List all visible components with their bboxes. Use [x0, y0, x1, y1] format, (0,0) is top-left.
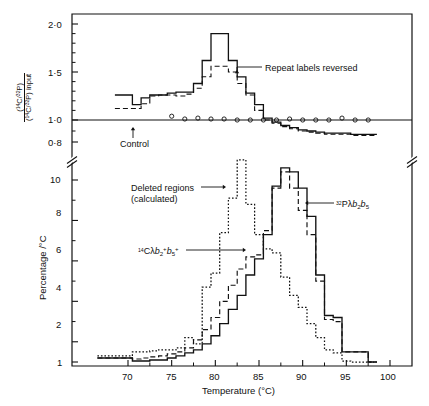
- top-ytick-2-0: 2·0: [48, 20, 62, 31]
- xtick-75: 75: [166, 372, 177, 383]
- top-yaxis-title: (14C/32P) (14C/32P) input: [16, 73, 33, 122]
- annotation-c14-lambda: 14Cλb2+b5+: [138, 246, 179, 257]
- annotation-control: Control: [120, 139, 149, 149]
- p32-superscript: 32: [336, 200, 342, 209]
- bottom-ytick-8: 8: [56, 208, 61, 219]
- fraction-numerator: (14C/32P): [16, 73, 24, 122]
- xtick-85: 85: [253, 372, 264, 383]
- top-yaxis-fraction: (14C/32P) (14C/32P) input: [16, 73, 33, 122]
- xtick-95: 95: [340, 372, 351, 383]
- top-ytick-0-8: 0·8: [48, 138, 62, 149]
- xtick-100: 100: [380, 372, 396, 383]
- bottom-ytick-4: 4: [56, 283, 61, 294]
- xtick-80: 80: [209, 372, 220, 383]
- annotation-p32-lambda: 32Pλb2b5: [336, 199, 369, 210]
- annotation-repeat-labels-reversed: Repeat labels reversed: [265, 63, 358, 73]
- bottom-ytick-6: 6: [56, 245, 61, 256]
- denaturation-figure: 2·0 1·5 1·0 0·8 (14C/32P) (14C/32P) inpu…: [0, 0, 429, 406]
- bottom-ytick-10: 10: [50, 175, 61, 186]
- bottom-ytick-1: 1: [57, 358, 62, 369]
- annotation-deleted-regions-line1: Deleted regions: [131, 183, 194, 193]
- fraction-denominator: (14C/32P) input: [24, 73, 33, 122]
- xaxis-title: Temperature (°C): [202, 386, 275, 397]
- top-ytick-1-5: 1·5: [48, 68, 62, 79]
- xtick-70: 70: [122, 372, 133, 383]
- bottom-yaxis-title: Percentage /°C: [38, 235, 49, 300]
- xtick-90: 90: [296, 372, 307, 383]
- bottom-ytick-2: 2: [56, 320, 61, 331]
- top-ytick-1-0: 1·0: [48, 115, 62, 126]
- c14-superscript: 14: [138, 247, 144, 256]
- annotation-deleted-regions-line2: (calculated): [131, 194, 178, 204]
- top-panel-frame: [67, 14, 417, 178]
